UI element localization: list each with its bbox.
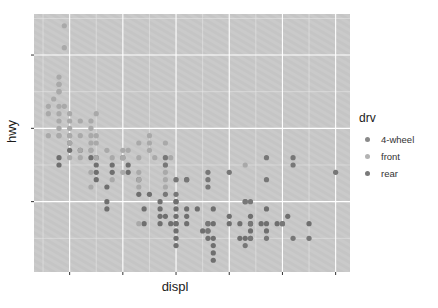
- data-point: [184, 221, 189, 226]
- legend-label: 4-wheel: [381, 134, 414, 145]
- data-point: [264, 155, 269, 160]
- data-point: [56, 111, 61, 116]
- data-point: [248, 228, 253, 233]
- data-point: [173, 236, 178, 241]
- data-point: [259, 221, 264, 226]
- data-point: [211, 258, 216, 263]
- data-point: [136, 177, 141, 182]
- data-point: [290, 162, 295, 167]
- data-point: [173, 221, 178, 226]
- data-point: [120, 148, 125, 153]
- data-point: [88, 126, 93, 131]
- data-point: [104, 199, 109, 204]
- data-point: [94, 155, 99, 160]
- data-point: [264, 221, 269, 226]
- data-point: [56, 162, 61, 167]
- data-point: [110, 177, 115, 182]
- data-point: [227, 170, 232, 175]
- data-point: [67, 133, 72, 138]
- data-point: [163, 214, 168, 219]
- data-point: [88, 148, 93, 153]
- data-point: [62, 104, 67, 109]
- data-point: [136, 184, 141, 189]
- data-point: [290, 236, 295, 241]
- data-point: [94, 111, 99, 116]
- data-point: [237, 236, 242, 241]
- legend-item-rear: rear: [359, 165, 414, 182]
- data-point: [248, 221, 253, 226]
- data-point: [163, 192, 168, 197]
- point-marker-icon: [365, 137, 370, 142]
- data-point: [227, 214, 232, 219]
- legend-key: [359, 148, 376, 165]
- data-point: [104, 148, 109, 153]
- data-point: [136, 192, 141, 197]
- data-point: [168, 221, 173, 226]
- data-point: [173, 192, 178, 197]
- data-point: [264, 206, 269, 211]
- data-point: [110, 170, 115, 175]
- data-point: [168, 155, 173, 160]
- point-marker-icon: [365, 154, 370, 159]
- data-point: [227, 221, 232, 226]
- data-point: [94, 177, 99, 182]
- data-point: [163, 140, 168, 145]
- data-point: [163, 170, 168, 175]
- data-point: [147, 140, 152, 145]
- data-point: [56, 155, 61, 160]
- data-point: [88, 155, 93, 160]
- data-point: [184, 177, 189, 182]
- data-point: [120, 170, 125, 175]
- data-point: [62, 23, 67, 28]
- data-point: [205, 177, 210, 182]
- data-point: [88, 118, 93, 123]
- data-point: [56, 89, 61, 94]
- legend-title: drv: [359, 111, 414, 125]
- data-point: [173, 206, 178, 211]
- data-point: [163, 184, 168, 189]
- data-point: [126, 148, 131, 153]
- data-point: [152, 155, 157, 160]
- data-point: [78, 118, 83, 123]
- data-point: [248, 236, 253, 241]
- data-point: [136, 155, 141, 160]
- data-point: [184, 214, 189, 219]
- data-point: [46, 111, 51, 116]
- legend-key: [359, 165, 376, 182]
- data-point: [248, 214, 253, 219]
- plot-panel: [34, 14, 350, 272]
- data-point: [78, 148, 83, 153]
- x-axis-title: displ: [162, 279, 189, 294]
- data-point: [56, 126, 61, 131]
- data-point: [56, 118, 61, 123]
- data-point: [46, 104, 51, 109]
- data-point: [205, 184, 210, 189]
- data-point: [264, 177, 269, 182]
- data-point: [333, 170, 338, 175]
- data-point: [110, 155, 115, 160]
- data-point: [88, 184, 93, 189]
- data-point: [147, 148, 152, 153]
- data-point: [205, 228, 210, 233]
- data-point: [173, 243, 178, 248]
- data-point: [104, 206, 109, 211]
- data-point: [243, 236, 248, 241]
- data-point: [94, 140, 99, 145]
- data-point: [173, 214, 178, 219]
- data-point: [173, 199, 178, 204]
- data-point: [78, 155, 83, 160]
- data-point: [46, 133, 51, 138]
- data-point: [163, 162, 168, 167]
- data-point: [173, 228, 178, 233]
- data-point: [56, 82, 61, 87]
- data-point: [243, 162, 248, 167]
- data-point: [126, 170, 131, 175]
- data-point: [275, 221, 280, 226]
- data-point: [94, 170, 99, 175]
- data-point: [195, 206, 200, 211]
- data-point: [211, 250, 216, 255]
- data-point: [147, 192, 152, 197]
- data-point: [104, 184, 109, 189]
- legend-key: [359, 131, 376, 148]
- data-point: [67, 155, 72, 160]
